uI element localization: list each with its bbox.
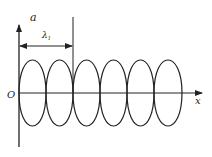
origin-label: O — [7, 89, 15, 100]
x-axis-label: x — [195, 95, 201, 106]
y-axis-label: a — [30, 11, 37, 24]
standing-wave-diagram: a x O λ1 — [0, 0, 212, 157]
wavelength-label: λ1 — [41, 30, 51, 41]
